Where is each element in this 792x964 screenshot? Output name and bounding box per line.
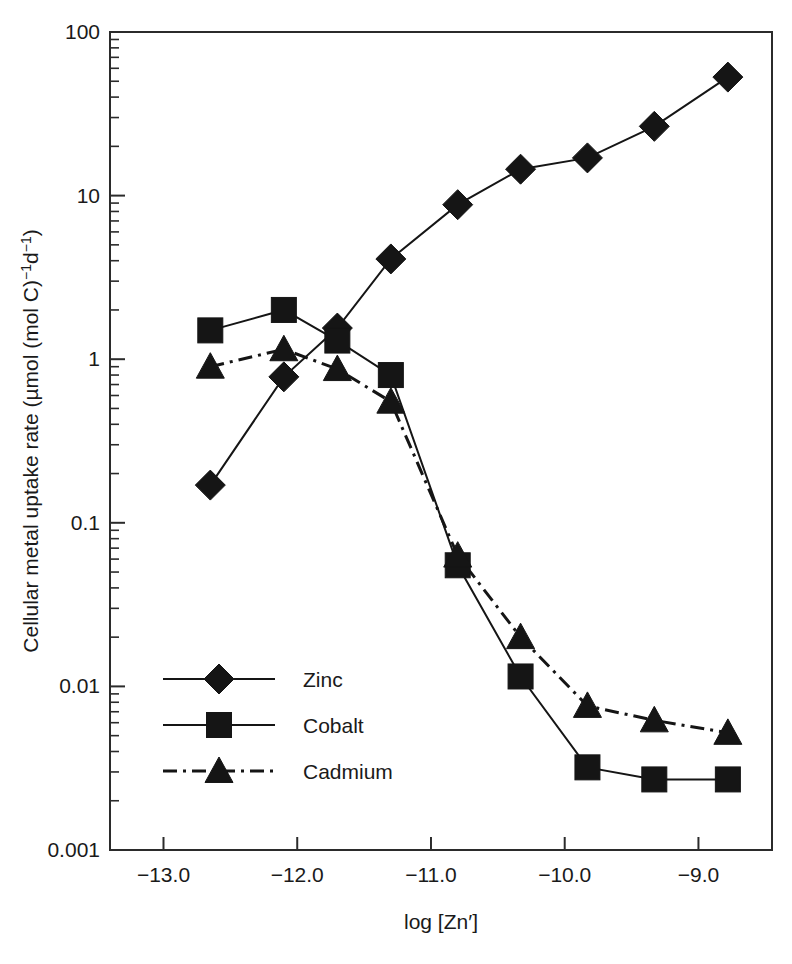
data-point-cobalt — [325, 328, 350, 353]
data-point-cobalt — [271, 297, 296, 322]
legend-label-cadmium: Cadmium — [303, 760, 393, 783]
data-point-cobalt — [508, 664, 533, 689]
data-point-cobalt — [378, 363, 403, 388]
data-point-cobalt — [198, 318, 223, 343]
x-tick-label: −11.0 — [405, 863, 457, 886]
y-tick-label: 0.001 — [47, 838, 100, 861]
legend-label-zinc: Zinc — [303, 668, 343, 691]
data-point-cobalt — [642, 767, 667, 792]
chart-background — [0, 0, 792, 964]
data-point-cobalt — [575, 755, 600, 780]
y-tick-label: 10 — [77, 184, 100, 207]
y-tick-label: 0.01 — [59, 674, 100, 697]
x-tick-label: −12.0 — [271, 863, 324, 886]
x-tick-label: −13.0 — [137, 863, 190, 886]
x-axis-title: log [Zn′] — [404, 910, 478, 933]
svg-text:Cellular metal uptake rate (µm: Cellular metal uptake rate (µmol (mol C)… — [18, 229, 42, 652]
data-point-cobalt — [715, 767, 740, 792]
y-axis-title: Cellular metal uptake rate (µmol (mol C)… — [18, 229, 42, 652]
y-tick-label: 0.1 — [71, 511, 100, 534]
y-tick-label: 100 — [65, 20, 100, 43]
legend-marker-cobalt — [207, 713, 232, 738]
y-tick-label: 1 — [88, 347, 100, 370]
x-tick-label: −9.0 — [678, 863, 719, 886]
x-tick-label: −10.0 — [538, 863, 591, 886]
uptake-rate-line-chart: 1001010.10.010.001 −13.0−12.0−11.0−10.0−… — [0, 0, 792, 964]
chart-figure: 1001010.10.010.001 −13.0−12.0−11.0−10.0−… — [0, 0, 792, 964]
legend-label-cobalt: Cobalt — [303, 714, 364, 737]
